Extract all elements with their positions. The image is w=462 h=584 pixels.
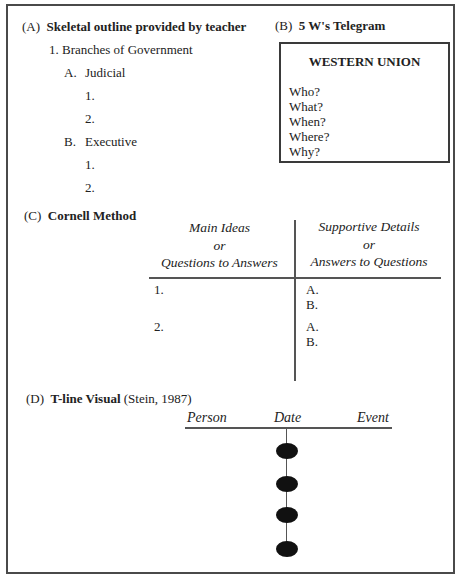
section-d-citation: (Stein, 1987)	[124, 391, 192, 406]
cornell-right-header: Supportive Details or Answers to Questio…	[298, 218, 440, 271]
cornell-left-header-line: Questions to Answers	[148, 254, 291, 272]
section-d-label: (D)	[26, 391, 44, 406]
cornell-right-header-line: or	[298, 236, 440, 254]
outline-sub-b-marker: B.	[64, 134, 76, 150]
cornell-left-header-line: or	[148, 237, 291, 255]
cornell-row-right: A. B.	[306, 282, 319, 312]
cornell-left-header: Main Ideas or Questions to Answers	[148, 219, 291, 272]
outline-sub-a-text: Judicial	[85, 65, 125, 81]
telegram-question: When?	[289, 114, 329, 129]
tline-column-event: Event	[357, 410, 389, 426]
telegram-question: What?	[289, 99, 329, 114]
tline-dot	[276, 443, 298, 459]
telegram-box: WESTERN UNION Who? What? When? Where? Wh…	[279, 42, 450, 163]
outline-sub-b-item: 1.	[85, 157, 95, 173]
tline-dot	[276, 507, 298, 523]
tline-dot	[276, 476, 298, 492]
tline-column-person: Person	[187, 410, 227, 426]
tline-horizontal-rule	[185, 427, 392, 429]
section-b-label: (B)	[275, 18, 292, 33]
tline-dot	[276, 541, 298, 557]
cornell-right-header-line: Answers to Questions	[298, 253, 440, 271]
cornell-row-right: A. B.	[306, 319, 319, 349]
telegram-questions: Who? What? When? Where? Why?	[289, 84, 329, 159]
outline-sub-a-item: 2.	[85, 111, 95, 127]
telegram-header: WESTERN UNION	[281, 54, 448, 70]
section-b-heading: (B) 5 W's Telegram	[275, 18, 385, 34]
cornell-vertical-rule	[294, 220, 296, 381]
outline-sub-a-item: 1.	[85, 88, 95, 104]
outline-sub-b-text: Executive	[85, 134, 137, 150]
cornell-detail: A.	[306, 319, 319, 334]
section-a-heading: (A) Skeletal outline provided by teacher	[22, 19, 246, 35]
section-a-title: Skeletal outline provided by teacher	[47, 19, 247, 34]
telegram-question: Why?	[289, 144, 329, 159]
cornell-detail: B.	[306, 297, 319, 312]
section-d-title: T-line Visual	[51, 391, 121, 406]
telegram-question: Who?	[289, 84, 329, 99]
outline-topic: 1. Branches of Government	[49, 42, 193, 58]
cornell-detail: A.	[306, 282, 319, 297]
cornell-right-header-line: Supportive Details	[298, 218, 440, 236]
section-a-label: (A)	[22, 19, 40, 34]
section-d-heading: (D) T-line Visual (Stein, 1987)	[26, 391, 192, 407]
section-b-title: 5 W's Telegram	[299, 18, 385, 33]
telegram-question: Where?	[289, 129, 329, 144]
cornell-row-left: 2.	[154, 319, 164, 335]
section-c-label: (C)	[24, 208, 41, 223]
section-c-title: Cornell Method	[48, 208, 136, 223]
outline-sub-b-item: 2.	[85, 180, 95, 196]
cornell-row-left: 1.	[154, 282, 164, 298]
outline-sub-a-marker: A.	[64, 65, 77, 81]
cornell-left-header-line: Main Ideas	[148, 219, 291, 237]
cornell-detail: B.	[306, 334, 319, 349]
section-c-heading: (C) Cornell Method	[24, 208, 136, 224]
tline-column-date: Date	[274, 410, 301, 426]
